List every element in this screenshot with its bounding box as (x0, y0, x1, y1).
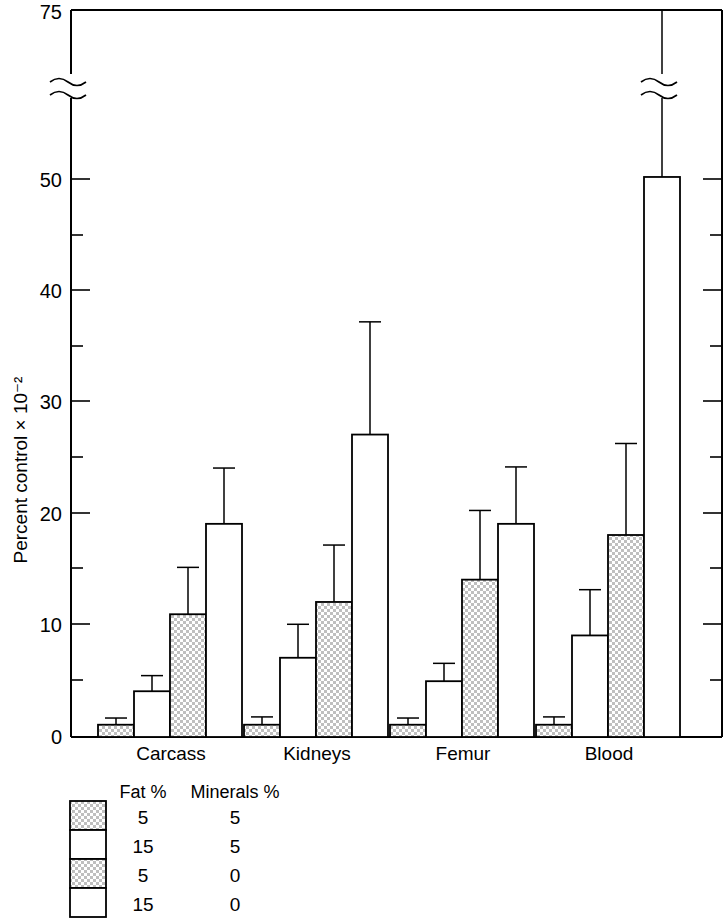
bar-femur-series-1 (426, 681, 462, 737)
error-bar-carcass-series-2 (177, 567, 199, 614)
y-axis-break-icon (50, 74, 86, 99)
bars-layer (98, 10, 680, 737)
bar-carcass-series-3 (206, 524, 242, 737)
y-tick-50: 50 (40, 169, 722, 191)
bar-femur-series-2 (462, 580, 498, 737)
bar-carcass-series-1 (134, 691, 170, 737)
legend-swatch-2 (70, 859, 106, 888)
bar-carcass-series-0 (98, 725, 134, 737)
legend-row-1: 15 5 (70, 830, 240, 859)
bar-group-femur (390, 467, 534, 737)
error-bar-kidneys-series-2 (323, 545, 345, 602)
legend-row-3: 15 0 (70, 888, 240, 917)
error-bar-blood-series-1 (579, 590, 601, 636)
bar-kidneys-series-1 (280, 658, 316, 737)
legend-minerals-3: 0 (230, 894, 241, 915)
bar-femur-series-0 (390, 725, 426, 737)
bar-femur-series-3 (498, 524, 534, 737)
error-bar-carcass-series-1 (141, 676, 163, 692)
group-label-carcass: Carcass (136, 743, 206, 764)
y-tick-label-30: 30 (40, 391, 62, 413)
figure-container: 75 50 40 30 (0, 0, 727, 919)
group-label-kidneys: Kidneys (283, 743, 351, 764)
legend-fat-3: 15 (132, 894, 153, 915)
error-bar-kidneys-series-1 (287, 624, 309, 657)
legend-swatch-1 (70, 830, 106, 859)
bar-blood-series-0 (536, 725, 572, 737)
legend: Fat % Minerals % 5 5 15 5 5 0 15 0 (70, 782, 280, 917)
y-tick-label-50: 50 (40, 169, 62, 191)
y-tick-75: 75 (40, 1, 62, 23)
error-bar-femur-series-3 (505, 467, 527, 524)
y-tick-30: 30 (40, 391, 722, 413)
legend-header-minerals: Minerals % (190, 782, 279, 802)
legend-fat-2: 5 (138, 865, 149, 886)
legend-minerals-1: 5 (230, 836, 241, 857)
y-tick-label-40: 40 (40, 280, 62, 302)
legend-fat-1: 15 (132, 836, 153, 857)
legend-swatch-3 (70, 888, 106, 917)
legend-row-2: 5 0 (70, 859, 240, 888)
bar-blood-series-2 (608, 535, 644, 737)
bar-group-blood (536, 10, 680, 737)
error-bar-kidneys-series-3 (359, 322, 381, 435)
bar-chart: 75 50 40 30 (0, 0, 727, 919)
error-bar-break-icon (641, 74, 677, 99)
legend-row-0: 5 5 (70, 801, 240, 830)
legend-minerals-2: 0 (230, 865, 241, 886)
error-bar-kidneys-series-0 (251, 717, 273, 725)
y-axis-title: Percent control × 10⁻² (10, 377, 31, 564)
error-bar-carcass-series-0 (105, 718, 127, 725)
bar-kidneys-series-0 (244, 725, 280, 737)
bar-blood-series-1 (572, 635, 608, 737)
bar-kidneys-series-2 (316, 602, 352, 737)
y-tick-label-10: 10 (40, 614, 62, 636)
group-label-blood: Blood (585, 743, 634, 764)
group-label-femur: Femur (436, 743, 492, 764)
y-tick-40: 40 (40, 280, 722, 302)
error-bar-femur-series-0 (397, 718, 419, 725)
bar-carcass-series-2 (170, 614, 206, 737)
legend-fat-0: 5 (138, 807, 149, 828)
bar-kidneys-series-3 (352, 435, 388, 737)
y-tick-label-20: 20 (40, 503, 62, 525)
bar-group-kidneys (244, 322, 388, 737)
error-bar-blood-series-2 (615, 443, 637, 535)
error-bar-blood-series-0 (543, 717, 565, 725)
legend-minerals-0: 5 (230, 807, 241, 828)
bar-blood-series-3 (644, 177, 680, 737)
y-tick-label-75: 75 (40, 1, 62, 23)
error-bar-carcass-series-3 (213, 468, 235, 524)
y-tick-label-0: 0 (51, 726, 62, 748)
y-tick-0: 0 (51, 726, 62, 748)
error-bar-femur-series-2 (469, 510, 491, 579)
legend-swatch-0 (70, 801, 106, 830)
bar-group-carcass (98, 468, 242, 737)
error-bar-femur-series-1 (433, 663, 455, 681)
legend-header-fat: Fat % (119, 782, 166, 802)
